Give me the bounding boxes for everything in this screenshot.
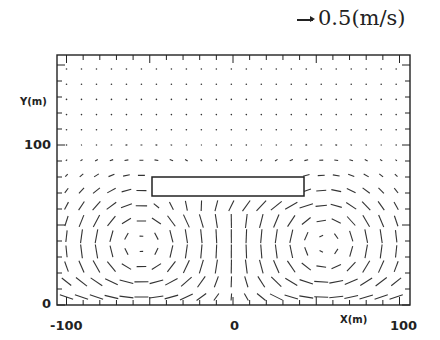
y-tick-0: 0 — [42, 296, 51, 311]
scale-label: 0.5(m/s) — [318, 6, 406, 30]
y-axis-label: Y(m) — [20, 96, 47, 107]
x-axis-label: X(m) — [340, 314, 367, 325]
y-tick-100: 100 — [24, 137, 51, 152]
building-obstacle — [152, 177, 304, 196]
x-tick-minus-100: -100 — [50, 318, 83, 333]
x-tick-0: 0 — [230, 318, 239, 333]
scale-arrow-icon — [297, 19, 313, 21]
x-tick-100: 100 — [390, 318, 417, 333]
vector-field-plot — [0, 0, 440, 340]
